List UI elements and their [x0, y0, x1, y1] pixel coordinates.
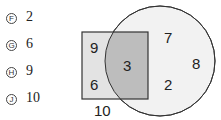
circle-only-top: 7 [164, 29, 172, 46]
circle-only-bottom: 2 [164, 76, 172, 93]
venn-diagram: 9 6 3 7 2 8 10 [0, 0, 221, 120]
outside-value: 10 [94, 102, 111, 119]
intersection-value: 3 [123, 57, 131, 74]
circle-only-right: 8 [192, 55, 200, 72]
rect-only-bottom: 6 [90, 76, 98, 93]
rect-only-top: 9 [90, 39, 98, 56]
